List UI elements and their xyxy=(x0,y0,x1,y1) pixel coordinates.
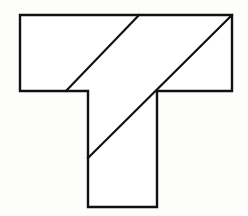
figure-canvas: T-shaped polygon with two parallel diago… xyxy=(0,0,248,216)
t-shape-dissection-figure: T-shaped polygon with two parallel diago… xyxy=(0,0,248,216)
